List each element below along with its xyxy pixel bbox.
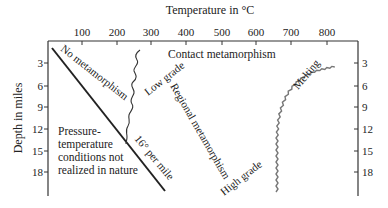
y-tick-label: 18 — [32, 166, 44, 178]
unrealized-conditions-label: Pressure- temperature conditions not rea… — [58, 125, 138, 176]
x-tick-label: 300 — [143, 26, 160, 38]
x-tick-label: 500 — [214, 26, 231, 38]
y-tick-labels-right: 3 6 9 12 15 18 — [362, 57, 374, 178]
y-tick-label-right: 3 — [362, 57, 368, 69]
x-tick-labels: 100 200 300 400 500 600 700 800 — [74, 26, 336, 38]
x-axis-title: Temperature in °C — [166, 3, 255, 17]
metamorphism-onset-curve — [126, 50, 140, 144]
metamorphism-diagram: 100 200 300 400 500 600 700 800 Temperat… — [0, 0, 388, 208]
x-tick-label: 700 — [283, 26, 300, 38]
unrealized-line-3: conditions not — [58, 151, 124, 163]
x-tick-label: 200 — [109, 26, 126, 38]
y-tick-label: 3 — [38, 57, 44, 69]
melting-label: Melting — [290, 57, 322, 92]
x-tick-label: 800 — [319, 26, 336, 38]
y-tick-label-right: 9 — [362, 101, 368, 113]
x-tick-label: 100 — [74, 26, 91, 38]
regional-metamorphism-label: Regional metamorphism — [168, 81, 233, 181]
no-metamorphism-label: No metamorphism — [59, 42, 131, 102]
x-tick-label: 400 — [178, 26, 195, 38]
y-axis-title: Depth in miles — [11, 82, 25, 153]
unrealized-line-4: realized in nature — [58, 164, 138, 176]
y-tick-label-right: 6 — [362, 80, 368, 92]
unrealized-line-2: temperature — [58, 138, 113, 151]
y-tick-label-right: 12 — [362, 123, 373, 135]
unrealized-line-1: Pressure- — [58, 125, 101, 137]
y-tick-label: 9 — [38, 101, 44, 113]
y-tick-label: 6 — [38, 80, 44, 92]
y-tick-label-right: 15 — [362, 145, 374, 157]
y-tick-label-right: 18 — [362, 166, 374, 178]
melting-curve — [276, 66, 335, 192]
y-tick-label: 15 — [32, 145, 44, 157]
y-tick-label: 12 — [32, 123, 43, 135]
y-tick-labels-left: 3 6 9 12 15 18 — [32, 57, 44, 178]
contact-metamorphism-label: Contact metamorphism — [168, 48, 276, 61]
x-tick-label: 600 — [248, 26, 265, 38]
